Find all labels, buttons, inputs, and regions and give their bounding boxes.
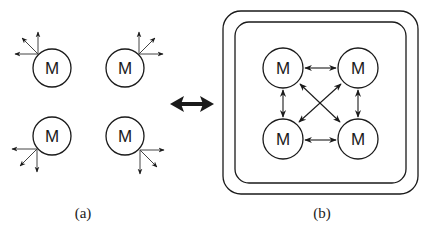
panel-a-node-bottom-right: M xyxy=(106,117,164,174)
panel-a-node-top-right: M xyxy=(106,32,163,87)
node-label: M xyxy=(118,59,132,78)
panel-b-node-bottom-right: M xyxy=(338,119,378,159)
outgoing-arrows-icon xyxy=(15,32,38,54)
node-label: M xyxy=(118,127,132,146)
outgoing-arrows-icon xyxy=(140,150,164,174)
panel-b-node-bottom-left: M xyxy=(263,119,303,159)
node-label: M xyxy=(45,59,59,78)
panel-a-node-top-left: M xyxy=(15,32,71,87)
node-label: M xyxy=(351,130,365,149)
diagram-canvas: M M M xyxy=(0,0,432,238)
outgoing-arrows-icon xyxy=(12,149,37,172)
panel-a-caption: (a) xyxy=(75,205,92,222)
node-label: M xyxy=(351,59,365,78)
double-headed-arrow-icon xyxy=(170,96,214,112)
node-label: M xyxy=(276,59,290,78)
panel-a: M M M xyxy=(12,32,164,222)
panel-b-node-top-right: M xyxy=(338,48,378,88)
panel-b: M M M M (b) xyxy=(223,11,418,222)
panel-b-caption: (b) xyxy=(313,205,331,222)
panel-b-node-top-left: M xyxy=(263,48,303,88)
node-label: M xyxy=(45,127,59,146)
node-label: M xyxy=(276,130,290,149)
outgoing-arrows-icon xyxy=(139,32,163,54)
panel-a-node-bottom-left: M xyxy=(12,117,71,172)
